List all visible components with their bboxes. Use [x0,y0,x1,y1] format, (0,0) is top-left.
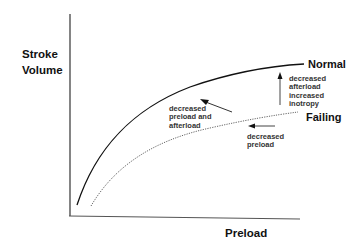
x-axis-title: Preload [225,225,267,241]
annotation-line: preload [247,141,284,149]
annotation-decreased-preload: decreased preload [247,133,284,150]
normal-curve-label: Normal [308,58,346,70]
y-axis-title-line1: Stroke [22,46,63,62]
failing-curve-label: Failing [306,111,341,123]
annotation-afterload-inotropy: decreased afterload increased inotropy [289,75,326,109]
arrow-horizontal-head-icon [248,124,255,129]
arrow-vertical-head-icon [278,72,283,79]
y-axis-title-line2: Volume [22,62,63,78]
y-axis-title: Stroke Volume [22,46,63,78]
x-axis [69,216,300,219]
annotation-line: afterload [169,122,212,130]
annotation-line: inotropy [289,100,326,108]
annotation-decreased-preload-afterload: decreased preload and afterload [169,105,212,130]
